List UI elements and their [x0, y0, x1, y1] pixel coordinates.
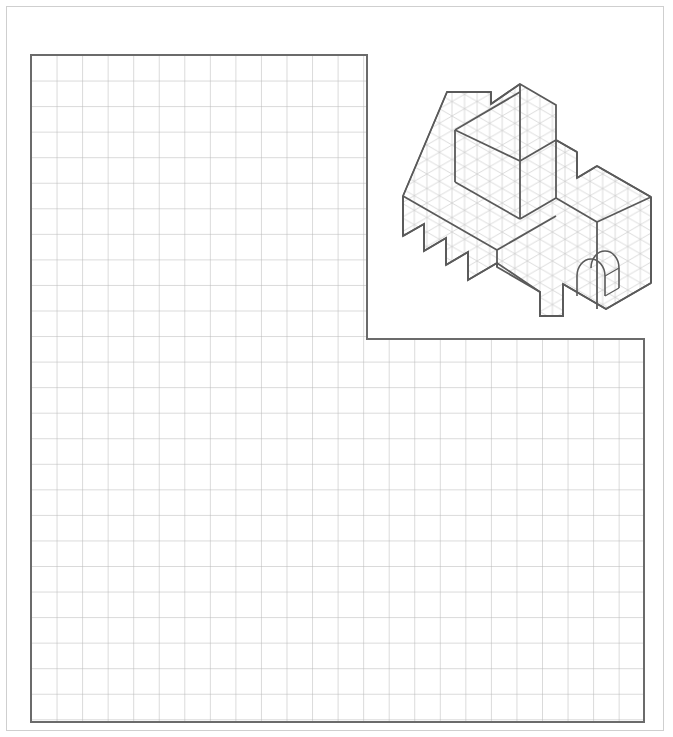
isometric-mesh — [395, 78, 665, 328]
isometric-solid-drawing — [395, 78, 665, 328]
worksheet-canvas — [0, 0, 673, 737]
worksheet-page: Isometric drawing worksheet Isometric pi… — [0, 0, 673, 737]
